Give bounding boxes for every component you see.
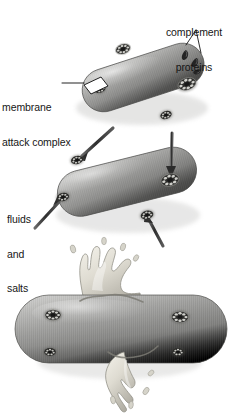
stage-3-pore-bottom-right bbox=[171, 347, 184, 356]
fluids-and-salts-label: fluids and salts bbox=[7, 191, 57, 306]
membrane-attack-complex-label-line1: membrane bbox=[2, 102, 106, 114]
fluids-and-salts-label-line1: fluids bbox=[7, 214, 57, 226]
fluids-and-salts-label-line2: and bbox=[7, 249, 57, 261]
membrane-attack-complex-label: membrane attack complex bbox=[2, 79, 106, 160]
fluids-and-salts-label-line3: salts bbox=[7, 283, 57, 295]
stage-3-pore-top-right bbox=[170, 310, 189, 323]
membrane-attack-complex-label-line2: attack complex bbox=[2, 137, 106, 149]
complement-proteins-label-line2: proteins bbox=[148, 62, 240, 74]
cytoplasm-droplet bbox=[102, 237, 107, 245]
stage-3-pore-bottom-left bbox=[43, 347, 56, 356]
complement-proteins-label-line1: complement bbox=[148, 27, 240, 39]
complement-proteins-label: complement proteins bbox=[148, 4, 240, 85]
stage-3-pore-top-left bbox=[44, 309, 62, 321]
